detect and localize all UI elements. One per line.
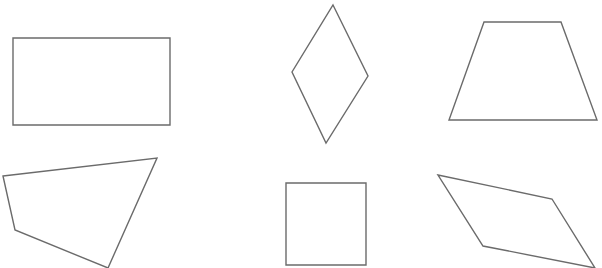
parallelogram-shape xyxy=(438,175,595,268)
square-shape xyxy=(286,183,366,265)
irregular-quadrilateral-shape xyxy=(3,158,157,268)
shapes-svg xyxy=(0,0,602,268)
rhombus-shape xyxy=(292,5,368,143)
rectangle-shape xyxy=(13,38,170,125)
shapes-diagram xyxy=(0,0,602,268)
trapezoid-shape xyxy=(449,22,597,120)
